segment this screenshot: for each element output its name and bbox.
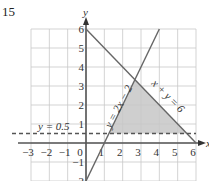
x-tick-label: −1: [59, 146, 71, 158]
y-axis-label: y: [82, 6, 88, 18]
x-axis-arrow-icon: [198, 140, 206, 146]
y-tick-label: −2: [72, 175, 84, 181]
y-tick-label: −1: [72, 156, 84, 168]
label-y-equals-0-5: y = 0.5: [37, 120, 70, 132]
x-tick-label: 2: [117, 146, 123, 158]
x-tick-label: −2: [40, 146, 52, 158]
y-tick-label: 5: [79, 42, 85, 54]
y-tick-label: 1: [79, 118, 85, 130]
x-tick-label: 3: [135, 146, 141, 158]
y-tick-label: 6: [79, 23, 85, 35]
linear-programming-graph: xy−3−2−10123456−2−1123456x + y = 6y = 2x…: [0, 0, 209, 181]
x-tick-label: 5: [172, 146, 178, 158]
x-axis-label: x: [205, 137, 209, 149]
y-tick-label: 2: [79, 99, 85, 111]
x-tick-label: 4: [154, 146, 160, 158]
y-tick-label: 3: [79, 80, 85, 92]
x-tick-label: −3: [22, 146, 34, 158]
y-tick-label: 4: [79, 61, 85, 73]
x-tick-label: 6: [190, 146, 196, 158]
